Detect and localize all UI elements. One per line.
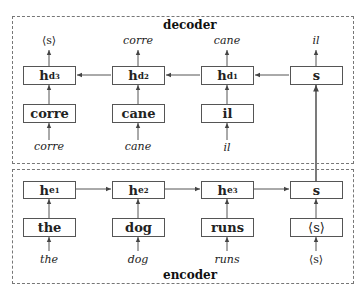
encoder-input-label: ⟨s⟩	[286, 253, 346, 266]
decoder-hidden-node-hd3: hd3	[23, 66, 76, 85]
decoder-output-label: corre	[108, 34, 168, 47]
decoder-embedding-node: il	[201, 104, 254, 123]
encoder-hidden-node-he3: he3	[201, 181, 254, 199]
encoder-hidden-node-he2: he2	[112, 181, 165, 199]
decoder-hidden-node-hd2: hd2	[112, 66, 165, 85]
decoder-input-label: cane	[108, 140, 168, 153]
encoder-input-label: runs	[197, 253, 257, 266]
decoder-hidden-node-hd1: hd1	[201, 66, 254, 85]
encoder-title: encoder	[163, 268, 217, 282]
decoder-input-label: il	[197, 141, 257, 154]
encoder-input-label: dog	[108, 253, 168, 266]
encoder-input-label: the	[19, 253, 79, 266]
decoder-title: decoder	[163, 18, 217, 32]
decoder-embedding-node: cane	[112, 104, 165, 123]
encoder-embedding-node: runs	[201, 218, 254, 237]
encoder-embedding-node: dog	[112, 218, 165, 237]
decoder-output-label: ⟨s⟩	[19, 34, 79, 47]
encoder-hidden-node-he1: he1	[23, 181, 76, 199]
encoder-embedding-node: ⟨s⟩	[290, 218, 343, 237]
decoder-state-node-s: s	[290, 66, 343, 85]
decoder-output-label: il	[286, 34, 346, 47]
encoder-embedding-node: the	[23, 218, 76, 237]
encoder-state-node-s: s	[290, 181, 343, 199]
decoder-embedding-node: corre	[23, 104, 76, 123]
decoder-input-label: corre	[19, 140, 79, 153]
decoder-output-label: cane	[197, 34, 257, 47]
